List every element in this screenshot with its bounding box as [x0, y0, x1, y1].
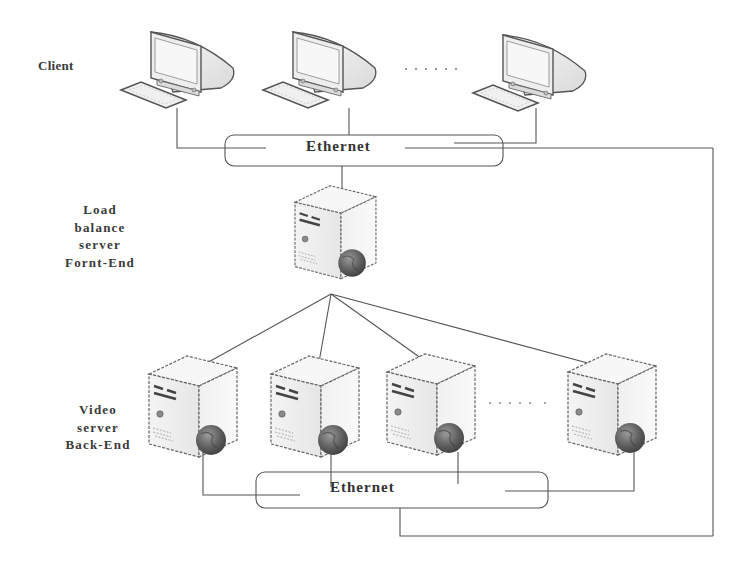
client-computer-n — [473, 35, 586, 111]
load-balancer-links — [196, 294, 610, 369]
load-balancer-label-line-4: Fornt-End — [50, 254, 150, 272]
video-server-label-line-2: server — [50, 419, 146, 437]
server-tower-icon — [387, 354, 475, 455]
desktop-computer-icon — [121, 32, 234, 108]
video-server-links — [203, 452, 713, 536]
video-server-label-line-3: Back-End — [50, 436, 146, 454]
load-balancer-label: Load balance server Fornt-End — [50, 201, 150, 271]
client-label: Client — [38, 58, 74, 74]
load-balance-server — [295, 186, 376, 279]
ethernet-bottom-label: Ethernet — [330, 479, 395, 496]
server-tower-icon — [271, 356, 359, 457]
client-ellipsis — [405, 68, 457, 70]
video-server-n — [568, 354, 656, 455]
video-server-label: Video server Back-End — [50, 401, 146, 454]
load-balancer-label-line-1: Load — [50, 201, 150, 219]
client-computer-2 — [263, 32, 376, 108]
server-tower-icon — [149, 356, 237, 457]
server-tower-icon — [295, 186, 376, 279]
ethernet-bottom-box — [256, 472, 548, 508]
video-server-label-line-1: Video — [50, 401, 146, 419]
video-server-3 — [387, 354, 475, 455]
video-server-2 — [271, 356, 359, 457]
desktop-computer-icon — [473, 35, 586, 111]
ethernet-top-label: Ethernet — [306, 138, 371, 155]
load-balancer-label-line-3: server — [50, 236, 150, 254]
client-computer-1 — [121, 32, 234, 108]
desktop-computer-icon — [263, 32, 376, 108]
load-balancer-label-line-2: balance — [50, 219, 150, 237]
server-ellipsis — [489, 402, 546, 404]
video-server-1 — [149, 356, 237, 457]
server-tower-icon — [568, 354, 656, 455]
